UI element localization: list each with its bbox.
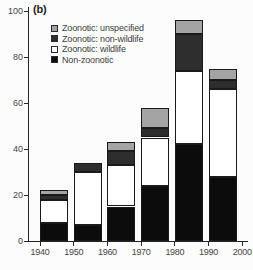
y-tick-0 xyxy=(24,241,28,242)
legend-item-zoonotic-unspecified: Zoonotic: unspecified xyxy=(51,23,144,34)
legend-label-non-zoonotic: Non-zoonotic xyxy=(62,55,113,65)
y-tick-label-60: 60 xyxy=(1,98,23,108)
bar-1980s-non-zoonotic-segment xyxy=(175,144,203,241)
x-tick-label-1970: 1970 xyxy=(127,247,155,257)
zoonotic-wildlife-swatch-icon xyxy=(51,46,58,53)
zoonotic-non-wildlife-swatch-icon xyxy=(51,35,58,42)
non-zoonotic-swatch-icon xyxy=(51,56,58,63)
bar-1980s-zoonotic-unspecified-segment xyxy=(175,20,203,34)
y-tick-80 xyxy=(24,57,28,58)
legend-item-zoonotic-wildlife: Zoonotic: wildlife xyxy=(51,44,144,55)
y-tick-40 xyxy=(24,149,28,150)
y-axis-line xyxy=(28,7,29,242)
y-tick-label-0: 0 xyxy=(1,236,23,246)
bar-1990s-zoonotic-non-wildlife-segment xyxy=(209,80,237,89)
x-tick-label-1990: 1990 xyxy=(195,247,223,257)
bar-1980s-zoonotic-non-wildlife-segment xyxy=(175,34,203,71)
bar-1970s-non-zoonotic-segment xyxy=(141,186,169,241)
y-tick-label-40: 40 xyxy=(1,144,23,154)
bar-1940s-non-zoonotic-segment xyxy=(40,223,68,241)
x-tick-label-1940: 1940 xyxy=(26,247,54,257)
bar-1960s-zoonotic-non-wildlife-segment xyxy=(107,151,135,165)
x-tick-1940 xyxy=(40,242,41,246)
x-axis-line xyxy=(28,241,248,242)
legend-label-zoonotic-wildlife: Zoonotic: wildlife xyxy=(62,44,126,54)
x-tick-1980 xyxy=(174,242,175,246)
x-tick-1950 xyxy=(73,242,74,246)
bar-1950s-non-zoonotic-segment xyxy=(74,225,102,241)
x-tick-1990 xyxy=(208,242,209,246)
x-tick-label-1960: 1960 xyxy=(93,247,121,257)
bar-1970s-zoonotic-wildlife-segment xyxy=(141,138,169,186)
bar-1960s-zoonotic-wildlife-segment xyxy=(107,165,135,206)
legend-item-non-zoonotic: Non-zoonotic xyxy=(51,55,144,66)
bar-1970s-zoonotic-unspecified-segment xyxy=(141,108,169,129)
x-tick-label-1980: 1980 xyxy=(161,247,189,257)
bar-1950s-zoonotic-wildlife-segment xyxy=(74,172,102,225)
x-tick-1960 xyxy=(107,242,108,246)
legend-item-zoonotic-non-wildlife: Zoonotic: non-wildlife xyxy=(51,34,144,45)
bar-1960s-non-zoonotic-segment xyxy=(107,207,135,242)
stacked-bar-chart-figure: (b) 020406080100 19401950196019701980199… xyxy=(0,0,253,270)
bar-1990s-zoonotic-wildlife-segment xyxy=(209,89,237,176)
bar-1990s-zoonotic-unspecified-segment xyxy=(209,69,237,81)
x-tick-label-2000: 2000 xyxy=(228,247,253,257)
bar-1940s-zoonotic-wildlife-segment xyxy=(40,200,68,223)
bar-1950s-zoonotic-non-wildlife-segment xyxy=(74,163,102,172)
bar-1940s-zoonotic-non-wildlife-segment xyxy=(40,195,68,200)
x-tick-label-1950: 1950 xyxy=(60,247,88,257)
y-tick-20 xyxy=(24,195,28,196)
y-tick-60 xyxy=(24,103,28,104)
legend-label-zoonotic-unspecified: Zoonotic: unspecified xyxy=(62,23,144,33)
legend-label-zoonotic-non-wildlife: Zoonotic: non-wildlife xyxy=(62,34,143,44)
y-tick-label-80: 80 xyxy=(1,52,23,62)
zoonotic-unspecified-swatch-icon xyxy=(51,25,58,32)
y-tick-label-20: 20 xyxy=(1,190,23,200)
y-tick-100 xyxy=(24,11,28,12)
panel-label: (b) xyxy=(33,3,46,15)
bar-1960s-zoonotic-unspecified-segment xyxy=(107,142,135,151)
bar-1990s-non-zoonotic-segment xyxy=(209,177,237,241)
x-tick-1970 xyxy=(141,242,142,246)
y-tick-label-100: 100 xyxy=(1,6,23,16)
legend: Zoonotic: unspecifiedZoonotic: non-wildl… xyxy=(51,23,144,65)
bar-1980s-zoonotic-wildlife-segment xyxy=(175,71,203,145)
bar-1970s-zoonotic-non-wildlife-segment xyxy=(141,128,169,137)
bar-1940s-zoonotic-unspecified-segment xyxy=(40,190,68,195)
x-tick-2000 xyxy=(242,242,243,246)
